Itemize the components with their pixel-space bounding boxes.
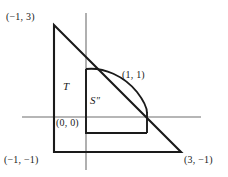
label-vertex-bottom-right: (3, −1)	[184, 155, 213, 165]
label-region-inner: S″	[90, 95, 100, 106]
label-tangent-point: (1, 1)	[122, 70, 145, 80]
geometry-figure: (−1, 3) (−1, −1) (3, −1) (1, 1) (0, 0) T…	[0, 0, 228, 177]
label-origin: (0, 0)	[56, 118, 79, 128]
label-region-outer: T	[63, 81, 69, 92]
label-vertex-bottom-left: (−1, −1)	[4, 155, 39, 165]
label-region-inner-prime: ″	[96, 95, 100, 106]
figure-canvas	[0, 0, 228, 177]
label-vertex-top-left: (−1, 3)	[6, 12, 35, 22]
